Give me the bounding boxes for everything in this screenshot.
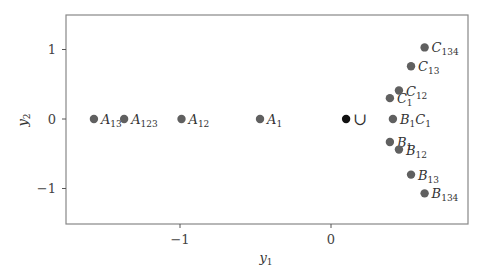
point-label: C134 <box>432 40 459 57</box>
point-label: B12 <box>405 143 427 160</box>
x-axis-label: y1 <box>258 250 272 267</box>
y-axis-label: y2 <box>15 113 32 127</box>
point-label: B1C1 <box>399 112 431 129</box>
point-label: ∪ <box>353 109 367 129</box>
point-marker <box>389 115 397 123</box>
point-marker <box>177 115 185 123</box>
data-point: B1C1 <box>389 112 431 129</box>
y-tick-label: 0 <box>48 112 56 127</box>
point-marker <box>256 115 264 123</box>
data-point: A1 <box>256 112 282 129</box>
data-point: C13 <box>407 59 440 76</box>
point-marker <box>407 62 415 70</box>
point-marker <box>395 145 403 153</box>
point-label: A1 <box>266 112 282 129</box>
data-point: B13 <box>407 168 439 185</box>
point-marker <box>90 115 98 123</box>
data-point: ∪ <box>342 109 367 129</box>
point-marker <box>386 94 394 102</box>
data-point: C134 <box>420 40 459 57</box>
point-marker <box>420 189 428 197</box>
point-label: B134 <box>431 186 459 203</box>
data-point: A12 <box>177 112 209 129</box>
axis-ticks: −10−101 <box>37 42 335 247</box>
point-label: A13 <box>100 112 122 129</box>
point-label: C13 <box>418 59 440 76</box>
point-marker <box>386 138 394 146</box>
point-marker <box>342 115 350 123</box>
point-label: C12 <box>406 84 427 101</box>
data-points: A13A123A12A1∪B1C1C1C12C13C134B1B12B13B13… <box>90 40 459 203</box>
y-tick-label: 1 <box>48 42 56 57</box>
data-point: A13 <box>90 112 122 129</box>
data-point: A123 <box>120 112 158 129</box>
point-marker <box>407 170 415 178</box>
scatter-chart: −10−101 A13A123A12A1∪B1C1C1C12C13C134B1B… <box>0 0 486 272</box>
data-point: B134 <box>420 186 458 203</box>
point-label: B13 <box>417 168 439 185</box>
x-tick-label: 0 <box>327 232 335 247</box>
point-marker <box>395 86 403 94</box>
point-marker <box>420 43 428 51</box>
point-label: A12 <box>188 112 210 129</box>
point-marker <box>120 115 128 123</box>
x-tick-label: −1 <box>170 232 189 247</box>
y-tick-label: −1 <box>37 181 56 196</box>
point-label: A123 <box>130 112 158 129</box>
